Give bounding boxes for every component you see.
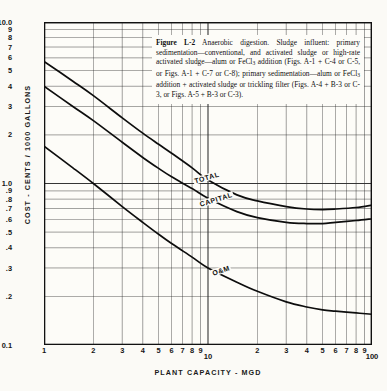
- subscript-3: 3: [357, 72, 360, 78]
- figure-caption: Figure L-2 Anaerobic digestion. Sludge i…: [152, 35, 364, 104]
- y-tick-label: 2: [0, 130, 12, 139]
- y-tick-label: 8: [0, 33, 12, 42]
- y-tick-label: 1.0: [0, 179, 12, 188]
- y-axis-title: COST - CENTS / 1000 GALLONS: [23, 60, 32, 250]
- y-tick-label: .2: [0, 292, 12, 301]
- x-tick-label: 1: [34, 346, 54, 355]
- subscript-3: 3: [252, 60, 255, 66]
- caption-label: Figure L-2: [156, 38, 195, 47]
- x-tick-label: 3: [276, 346, 296, 355]
- figure-page: COST - CENTS / 1000 GALLONS 0.1.2.3.4.5.…: [0, 0, 387, 391]
- x-axis-title: PLANT CAPACITY - MGD: [44, 368, 372, 377]
- y-tick-label: 0.1: [0, 341, 12, 350]
- y-tick-label: 4: [0, 82, 12, 91]
- x-tick-label: 10: [198, 352, 218, 361]
- y-tick-label: 5: [0, 66, 12, 75]
- y-tick-label: .8: [0, 195, 12, 204]
- y-tick-label: 7: [0, 43, 12, 52]
- y-tick-label: 6: [0, 53, 12, 62]
- y-tick-label: .5: [0, 228, 12, 237]
- y-tick-label: 10.0: [0, 18, 12, 27]
- y-tick-label: .6: [0, 215, 12, 224]
- x-tick-label: 100: [362, 352, 382, 361]
- y-tick-label: .7: [0, 204, 12, 213]
- caption-body: Anaerobic digestion. Sludge influent: pr…: [156, 38, 360, 99]
- y-tick-label: .3: [0, 264, 12, 273]
- y-tick-label: 3: [0, 102, 12, 111]
- x-tick-label: 2: [83, 346, 103, 355]
- x-tick-label: 3: [112, 346, 132, 355]
- x-tick-label: 2: [247, 346, 267, 355]
- y-tick-label: .4: [0, 243, 12, 252]
